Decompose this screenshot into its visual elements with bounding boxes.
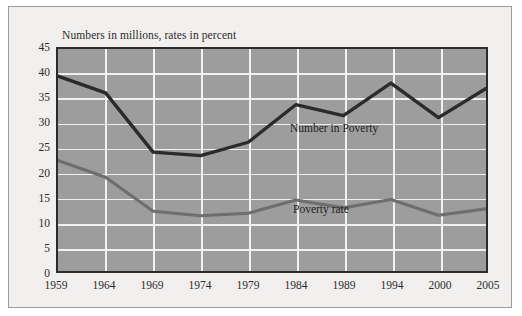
y-tick-label: 45 xyxy=(24,41,50,53)
y-tick-label: 30 xyxy=(24,116,50,128)
series-line-number-in-poverty xyxy=(58,76,486,155)
x-tick-label: 1959 xyxy=(45,279,68,291)
y-tick-label: 20 xyxy=(24,167,50,179)
x-tick-label: 1979 xyxy=(237,279,260,291)
poverty-chart-figure: Numbers in millions, rates in percent 45… xyxy=(0,0,522,316)
x-tick-label: 1984 xyxy=(285,279,308,291)
y-tick-label: 25 xyxy=(24,141,50,153)
y-tick-label: 5 xyxy=(24,242,50,254)
x-tick-label: 1989 xyxy=(333,279,356,291)
x-axis-tick-labels: 1959196419691974197919841989199420002005 xyxy=(56,279,488,297)
x-tick-label: 1994 xyxy=(381,279,404,291)
series-label-number-in-poverty: Number in Poverty xyxy=(290,122,378,134)
y-tick-label: 40 xyxy=(24,66,50,78)
y-tick-label: 15 xyxy=(24,192,50,204)
plot-area xyxy=(56,47,488,273)
x-tick-label: 1969 xyxy=(141,279,164,291)
series-label-poverty-rate: Poverty rate xyxy=(293,203,349,215)
chart-title: Numbers in millions, rates in percent xyxy=(62,29,236,41)
x-tick-label: 2005 xyxy=(477,279,500,291)
y-axis-tick-labels: 454035302520151050 xyxy=(22,47,50,273)
x-tick-label: 1964 xyxy=(93,279,116,291)
x-tick-label: 1974 xyxy=(189,279,212,291)
y-tick-label: 0 xyxy=(24,267,50,279)
y-tick-label: 10 xyxy=(24,217,50,229)
x-tick-label: 2000 xyxy=(429,279,452,291)
series-lines xyxy=(58,49,486,271)
series-line-poverty-rate xyxy=(58,160,486,215)
y-tick-label: 35 xyxy=(24,91,50,103)
